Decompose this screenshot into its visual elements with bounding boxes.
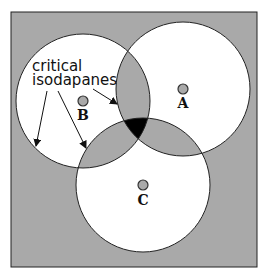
point-b-marker — [78, 96, 88, 106]
point-a-marker — [178, 84, 188, 94]
point-a-label: A — [177, 95, 190, 111]
point-b-label: B — [77, 107, 89, 123]
annotation-line-2: isodapanes — [32, 71, 117, 89]
isodapane-diagram: A B C critical isodapanes — [0, 0, 275, 277]
point-c-marker — [138, 180, 148, 190]
point-c-label: C — [137, 192, 148, 208]
